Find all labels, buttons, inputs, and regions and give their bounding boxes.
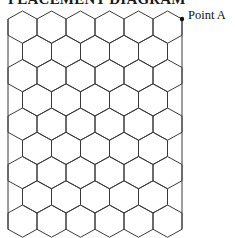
hex-cell	[66, 60, 95, 92]
hex-cell	[95, 157, 124, 189]
hex-cell	[37, 60, 66, 92]
hex-cell	[52, 132, 81, 164]
hex-cell	[110, 35, 139, 67]
hexagon-cells	[8, 11, 182, 237]
hex-cell	[95, 108, 124, 140]
hex-cell	[66, 205, 95, 237]
hex-cell	[52, 35, 81, 67]
hex-cell	[52, 84, 81, 116]
hex-cell	[23, 84, 52, 116]
hex-cell	[153, 205, 182, 237]
hex-cell	[8, 157, 37, 189]
hex-cell	[8, 11, 37, 43]
hex-cell	[81, 132, 110, 164]
hex-cell	[37, 11, 66, 43]
hex-cell	[81, 84, 110, 116]
hex-cell	[23, 35, 52, 67]
hex-cell	[153, 157, 182, 189]
hex-cell	[124, 11, 153, 43]
hex-cell	[8, 108, 37, 140]
hex-cell	[95, 11, 124, 43]
hex-cell	[124, 108, 153, 140]
hex-cell	[139, 181, 168, 213]
hex-cell	[110, 132, 139, 164]
hex-cell	[153, 60, 182, 92]
point-a-marker	[180, 17, 184, 21]
hex-cell	[139, 132, 168, 164]
hexagon-grid	[0, 0, 235, 238]
hex-cell	[139, 35, 168, 67]
hex-cell	[66, 157, 95, 189]
hex-cell	[8, 205, 37, 237]
hex-cell	[110, 84, 139, 116]
hex-cell	[37, 205, 66, 237]
hex-cell	[37, 157, 66, 189]
hex-cell	[124, 205, 153, 237]
hex-cell	[110, 181, 139, 213]
hex-cell	[124, 60, 153, 92]
hex-cell	[23, 181, 52, 213]
hex-cell	[66, 108, 95, 140]
hex-cell	[95, 60, 124, 92]
hex-cell	[81, 35, 110, 67]
hex-cell	[52, 181, 81, 213]
point-a-label: Point A	[188, 8, 226, 22]
hex-cell	[8, 60, 37, 92]
hex-cell	[81, 181, 110, 213]
hex-cell	[124, 157, 153, 189]
hex-cell	[37, 108, 66, 140]
hex-cell	[23, 132, 52, 164]
hex-cell	[95, 205, 124, 237]
hex-cell	[153, 108, 182, 140]
hex-cell	[139, 84, 168, 116]
hex-cell	[66, 11, 95, 43]
hex-cell	[153, 11, 182, 43]
